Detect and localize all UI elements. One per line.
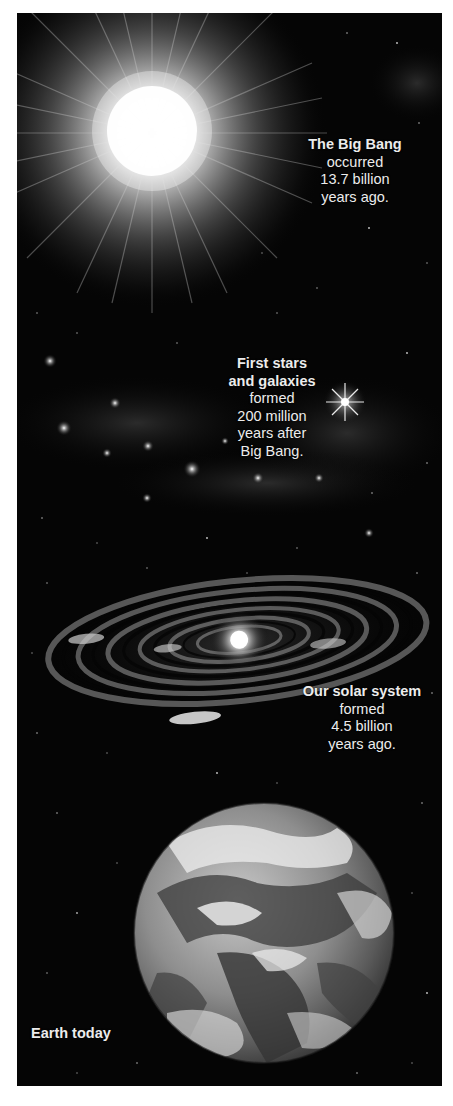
caption-line: formed [287, 701, 437, 719]
caption-title: The Big Bang [285, 136, 425, 154]
earth-caption: Earth today [31, 1025, 141, 1043]
earth-globe [134, 803, 394, 1063]
caption-line: 200 million [212, 408, 332, 426]
caption-line: 13.7 billion [285, 171, 425, 189]
caption-line: occurred [285, 154, 425, 172]
cosmic-timeline-panel: The Big Bang occurred 13.7 billion years… [17, 13, 442, 1086]
caption-title: Our solar system [287, 683, 437, 701]
caption-line: Big Bang. [212, 443, 332, 461]
caption-line: 4.5 billion [287, 718, 437, 736]
big-bang-caption: The Big Bang occurred 13.7 billion years… [285, 136, 425, 206]
caption-title: First stars [212, 355, 332, 373]
first-stars-caption: First stars and galaxies formed 200 mill… [212, 355, 332, 460]
page: The Big Bang occurred 13.7 billion years… [0, 0, 453, 1106]
caption-line: years after [212, 425, 332, 443]
caption-line: formed [212, 390, 332, 408]
solar-system-caption: Our solar system formed 4.5 billion year… [287, 683, 437, 753]
caption-title: Earth today [31, 1025, 141, 1043]
caption-title: and galaxies [212, 373, 332, 391]
caption-line: years ago. [285, 189, 425, 207]
caption-line: years ago. [287, 736, 437, 754]
